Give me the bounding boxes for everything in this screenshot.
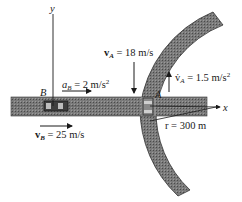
diagram-canvas: [0, 0, 242, 202]
car-b-label: B: [40, 87, 46, 98]
velocity-a-label: vA = 18 m/s: [104, 47, 153, 62]
x-axis-label: x: [223, 102, 228, 113]
velocity-b-label: vB = 25 m/s: [35, 129, 84, 144]
y-axis-label: y: [50, 3, 55, 14]
tangential-accel-a-label: v̇A = 1.5 m/s2: [175, 70, 230, 87]
car-a: [143, 98, 153, 115]
car-a-label: A: [155, 89, 161, 100]
accel-b-label: aB = 2 m/s2: [62, 77, 109, 94]
car-b: [44, 101, 68, 111]
radius-label: r = 300 m: [165, 120, 206, 131]
